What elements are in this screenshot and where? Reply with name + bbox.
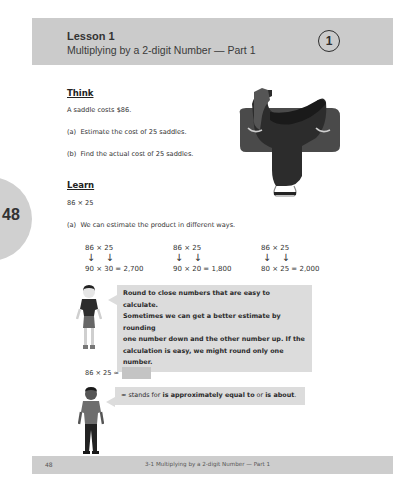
down-arrow-icon: ↓ xyxy=(280,253,292,263)
saddle-image xyxy=(232,86,342,198)
approx-expression: 86 × 25 ≈ xyxy=(85,369,119,377)
estimate-arrows: ↓ ↓ xyxy=(261,253,320,264)
lesson-number-badge: 1 xyxy=(318,30,340,52)
down-arrow-icon: ↓ xyxy=(85,253,97,263)
tip-bold: is approximately equal to xyxy=(162,391,254,399)
learn-expression: 86 × 25 xyxy=(67,199,94,207)
item-text: We can estimate the product in different… xyxy=(80,221,235,229)
think-heading: Think xyxy=(67,88,93,98)
learn-part-a: (a) We can estimate the product in diffe… xyxy=(67,221,235,229)
lesson-label: Lesson 1 xyxy=(67,30,115,42)
tip-line: one number down and the other number up.… xyxy=(123,334,306,346)
down-arrow-icon: ↓ xyxy=(104,253,116,263)
side-page-number: 48 xyxy=(2,206,20,224)
estimate-rounded: 80 × 25 = 2,000 xyxy=(261,264,320,274)
down-arrow-icon: ↓ xyxy=(192,253,204,263)
boy-speech-bubble: ≈ stands for is approximately equal to o… xyxy=(115,387,305,405)
footer-page-number: 48 xyxy=(45,461,53,468)
think-item-a: (a) Estimate the cost of 25 saddles. xyxy=(67,128,187,136)
item-text: Find the actual cost of 25 saddles. xyxy=(81,150,194,158)
item-label: (a) xyxy=(67,221,76,229)
estimate-2: 86 × 25 ↓ ↓ 90 × 20 = 1,800 xyxy=(173,243,232,274)
think-item-b: (b) Find the actual cost of 25 saddles. xyxy=(67,150,193,158)
estimate-3: 86 × 25 ↓ ↓ 80 × 25 = 2,000 xyxy=(261,243,320,274)
tip-line: Sometimes we can get a better estimate b… xyxy=(123,311,306,334)
tip-text: ≈ stands for xyxy=(121,391,162,399)
girl-speech-bubble: Round to close numbers that are easy to … xyxy=(117,285,312,372)
estimate-rounded: 90 × 20 = 1,800 xyxy=(173,264,232,274)
estimate-rounded: 90 × 30 = 2,700 xyxy=(85,264,144,274)
estimate-1: 86 × 25 ↓ ↓ 90 × 30 = 2,700 xyxy=(85,243,144,274)
tip-line: calculation is easy, we might round only… xyxy=(123,346,306,369)
tip-text: or xyxy=(255,391,266,399)
estimate-arrows: ↓ ↓ xyxy=(173,253,232,264)
down-arrow-icon: ↓ xyxy=(261,253,273,263)
tip-text: . xyxy=(294,391,296,399)
item-label: (a) xyxy=(67,128,76,136)
answer-blank-box[interactable] xyxy=(122,367,151,379)
item-label: (b) xyxy=(67,150,76,158)
down-arrow-icon: ↓ xyxy=(173,253,185,263)
girl-character xyxy=(76,283,102,353)
learn-heading: Learn xyxy=(67,180,94,190)
item-text: Estimate the cost of 25 saddles. xyxy=(80,128,186,136)
tip-bold: is about xyxy=(265,391,294,399)
tip-line: Round to close numbers that are easy to … xyxy=(123,288,306,311)
boy-character xyxy=(78,386,104,458)
think-intro: A saddle costs $86. xyxy=(67,106,131,114)
footer-title: 3-1 Multiplying by a 2-digit Number — Pa… xyxy=(145,461,270,467)
lesson-title: Multiplying by a 2-digit Number — Part 1 xyxy=(67,44,256,56)
estimate-arrows: ↓ ↓ xyxy=(85,253,144,264)
